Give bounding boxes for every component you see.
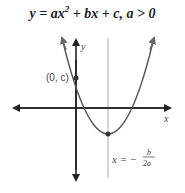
parabola-diagram: y x (0, c) x = − b 2a	[0, 0, 185, 193]
symmetry-label: x = −	[111, 153, 137, 165]
symmetry-numerator: b	[147, 148, 151, 157]
vertex-point	[106, 132, 111, 137]
x-axis-label: x	[163, 113, 169, 124]
y-intercept-point	[74, 76, 79, 81]
symmetry-denominator: 2a	[143, 159, 151, 168]
y-axis-label: y	[80, 41, 86, 52]
y-intercept-label: (0, c)	[46, 72, 69, 83]
